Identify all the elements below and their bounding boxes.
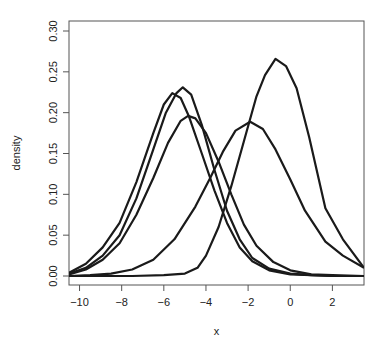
- x-tick-label: −4: [200, 296, 213, 308]
- y-tick-label: 0.10: [47, 184, 59, 205]
- x-axis-title: x: [214, 325, 220, 337]
- y-tick-label: 0.25: [47, 61, 59, 82]
- y-tick-label: 0.00: [47, 265, 59, 286]
- x-axis: −10−8−6−4−202: [70, 285, 335, 308]
- y-axis: 0.000.050.100.150.200.250.30: [47, 20, 69, 286]
- density-chart: −10−8−6−4−202 0.000.050.100.150.200.250.…: [0, 0, 384, 349]
- y-tick-label: 0.30: [47, 20, 59, 41]
- density-line-curve-4: [69, 122, 364, 276]
- y-tick-label: 0.05: [47, 224, 59, 245]
- x-tick-label: 2: [329, 296, 335, 308]
- x-tick-label: 0: [287, 296, 293, 308]
- y-tick-label: 0.15: [47, 143, 59, 164]
- x-tick-label: −8: [115, 296, 128, 308]
- plot-frame: [69, 21, 364, 285]
- y-axis-title: density: [10, 135, 22, 170]
- x-tick-label: −6: [158, 296, 171, 308]
- y-tick-label: 0.20: [47, 102, 59, 123]
- x-tick-label: −2: [242, 296, 255, 308]
- series-layer: [69, 59, 364, 276]
- x-tick-label: −10: [70, 296, 89, 308]
